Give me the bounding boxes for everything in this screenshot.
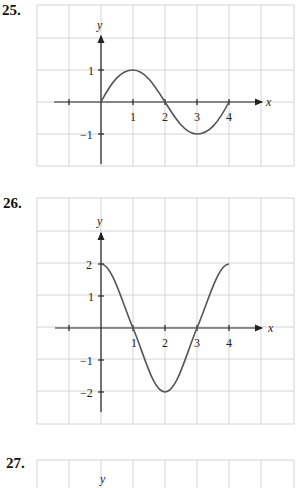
- axes-25: [54, 36, 262, 164]
- x-tick-26-4: 4: [226, 336, 232, 350]
- x-tick-25-2: 2: [162, 110, 168, 124]
- x-tick-25-3: 3: [194, 110, 200, 124]
- x-axis-label-26: x: [267, 321, 274, 335]
- y-tick-25-neg1: −1: [80, 128, 93, 142]
- x-tick-26-2: 2: [162, 336, 168, 350]
- y-tick-25-1: 1: [88, 64, 94, 78]
- y-axis-label-27: y: [99, 472, 106, 486]
- y-tick-26-neg1: −1: [80, 354, 93, 368]
- y-tick-26-neg2: −2: [80, 386, 93, 400]
- x-axis-label-25: x: [265, 95, 272, 109]
- graph-25: y x 1 2 3 4 1 −1: [37, 5, 294, 166]
- grid-26: [37, 198, 294, 424]
- y-tick-26-2: 2: [86, 258, 92, 272]
- graph-27: y: [37, 460, 294, 488]
- x-tick-25-1: 1: [130, 110, 136, 124]
- graphs-canvas: y x 1 2 3 4 1 −1: [0, 0, 301, 488]
- y-tick-26-1: 1: [88, 290, 94, 304]
- x-tick-26-3: 3: [194, 336, 200, 350]
- graph-26: y x 1 2 3 4 2 1 −1 −2: [37, 198, 294, 424]
- x-tick-25-4: 4: [226, 110, 232, 124]
- x-tick-26-1: 1: [131, 336, 137, 350]
- grid-27: [37, 460, 294, 488]
- y-axis-label-25: y: [96, 18, 103, 32]
- grid-25: [37, 5, 294, 166]
- y-axis-label-26: y: [96, 214, 103, 228]
